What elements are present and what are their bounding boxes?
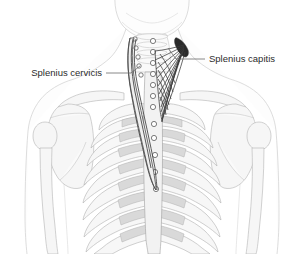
label-splenius-cervicis: Splenius cervicis bbox=[31, 67, 102, 78]
label-splenius-capitis: Splenius capitis bbox=[209, 53, 275, 64]
vertebra-marker bbox=[150, 93, 155, 98]
vertebra-marker bbox=[151, 135, 156, 140]
transverse-process-marker bbox=[139, 73, 143, 77]
vertebra-marker bbox=[151, 121, 156, 126]
vertebra-marker bbox=[150, 38, 155, 43]
humerus-head-right bbox=[247, 122, 271, 150]
illustration-canvas: Splenius capitis Splenius cervicis bbox=[0, 0, 295, 254]
vertebra-marker bbox=[150, 82, 155, 87]
anatomical-illustration: Splenius capitis Splenius cervicis bbox=[0, 0, 295, 254]
vertebra-marker bbox=[150, 71, 155, 76]
transverse-process-marker bbox=[136, 55, 140, 59]
humerus-head-left bbox=[33, 122, 57, 150]
vertebra-marker bbox=[150, 104, 155, 109]
vertebra-marker bbox=[150, 60, 155, 65]
